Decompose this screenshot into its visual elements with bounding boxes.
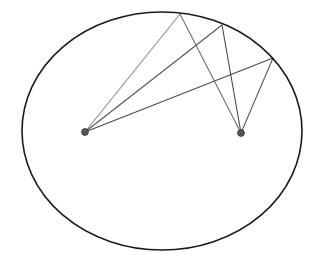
left-focus-marker[interactable] bbox=[82, 129, 89, 136]
right-focus-marker[interactable] bbox=[238, 130, 245, 137]
geometry-canvas bbox=[0, 0, 317, 266]
geometry-figure bbox=[0, 0, 317, 266]
